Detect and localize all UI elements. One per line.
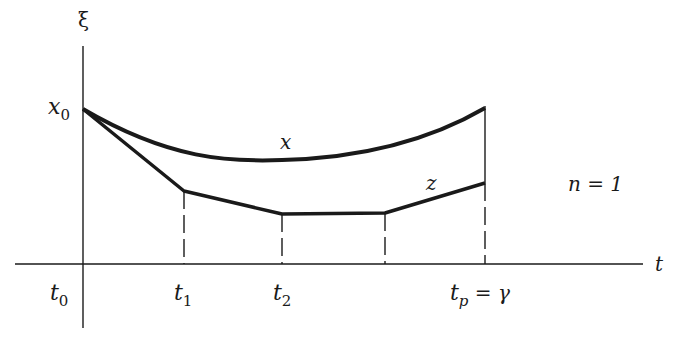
t2-main: t [273, 280, 282, 305]
diagram-canvas: ξ t x0 t0 t1 t2 tp = γ x z n = 1 [0, 0, 678, 341]
t0-main: t [50, 280, 59, 305]
diagram-svg [0, 0, 678, 341]
curve-z-label: z [426, 173, 437, 193]
tp-sub: p [459, 292, 469, 310]
t0-sub: 0 [59, 292, 69, 310]
x0-main: x [48, 94, 60, 119]
x0-sub: 0 [60, 106, 70, 124]
t0-label: t0 [50, 282, 68, 304]
vertical-axis-label: ξ [78, 10, 89, 30]
tp-main: t [450, 280, 459, 305]
t1-sub: 1 [183, 292, 193, 310]
t2-label: t2 [273, 282, 291, 304]
curve-x-label: x [280, 132, 291, 152]
tp-equals-gamma: = γ [468, 281, 509, 305]
x0-label: x0 [48, 96, 70, 118]
t1-main: t [174, 280, 183, 305]
tp-label: tp = γ [450, 282, 510, 304]
t2-sub: 2 [282, 292, 292, 310]
n-equals-label: n = 1 [568, 174, 623, 194]
t1-label: t1 [174, 282, 192, 304]
horizontal-axis-label: t [655, 254, 663, 274]
